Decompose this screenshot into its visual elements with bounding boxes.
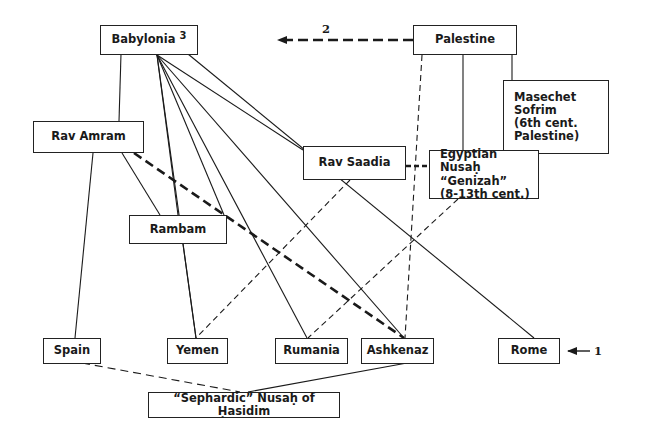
edge-rav-amram-spain: [75, 153, 93, 338]
node-masechet-line-4: Palestine): [514, 130, 579, 143]
node-yemen-label: Yemen: [176, 344, 219, 357]
node-egyptian-line-1: Egyptian Nusaḥ: [440, 148, 538, 174]
annotation-1: 1: [594, 344, 602, 358]
node-rome-label: Rome: [511, 344, 548, 357]
annotation-2: 2: [322, 22, 330, 36]
node-babylonia: Babylonia3: [100, 25, 198, 55]
node-spain: Spain: [43, 338, 101, 364]
node-ashkenaz-label: Ashkenaz: [367, 344, 429, 357]
node-sephardic-label: “Sephardic” Nusaḥ of Ḥasidim: [149, 392, 339, 418]
node-sephardic-hasidim: “Sephardic” Nusaḥ of Ḥasidim: [148, 392, 340, 418]
node-rav-saadia: Rav Saadia: [303, 146, 406, 180]
edge-palestine-ashkenaz: [405, 55, 422, 338]
node-rumania-label: Rumania: [283, 344, 340, 357]
edge-ashkenaz-sephardic: [248, 363, 407, 392]
edge-babylonia-rav-amram: [119, 54, 121, 121]
node-rambam: Rambam: [129, 215, 227, 244]
edge-egyptian-rumania: [308, 199, 458, 338]
node-babylonia-superscript: 3: [180, 30, 187, 42]
node-rav-saadia-label: Rav Saadia: [319, 156, 391, 169]
node-egyptian-line-2: “Genizah”: [440, 175, 507, 188]
node-rav-amram-label: Rav Amram: [51, 130, 125, 143]
diagram-edges: [0, 0, 654, 445]
node-rambam-label: Rambam: [150, 223, 207, 236]
node-masechet-sofrim: Masechet Sofrim (6th cent. Palestine): [503, 80, 609, 154]
edge-rav-amram-ashkenaz: [134, 153, 404, 338]
node-ashkenaz: Ashkenaz: [361, 338, 434, 364]
node-egyptian-nusah: Egyptian Nusaḥ “Genizah” (8-13th cent.): [429, 150, 539, 199]
node-rumania: Rumania: [275, 338, 348, 364]
node-rav-amram: Rav Amram: [33, 121, 144, 153]
node-palestine-label: Palestine: [435, 33, 495, 46]
edge-babylonia-ashkenaz: [157, 55, 404, 338]
edge-babylonia-rumania: [157, 55, 307, 338]
edge-babylonia-rav-saadia: [157, 55, 303, 150]
edge-spain-sephardic: [82, 363, 240, 392]
node-spain-label: Spain: [54, 344, 90, 357]
node-babylonia-label: Babylonia: [112, 33, 176, 46]
node-masechet-line-1: Masechet: [514, 91, 576, 104]
node-egyptian-line-3: (8-13th cent.): [440, 188, 530, 201]
edge-rambam-yemen: [183, 244, 196, 338]
node-rome: Rome: [498, 338, 560, 364]
edge-rav-amram-rambam: [122, 153, 160, 215]
node-yemen: Yemen: [167, 338, 228, 364]
node-palestine: Palestine: [413, 25, 517, 55]
